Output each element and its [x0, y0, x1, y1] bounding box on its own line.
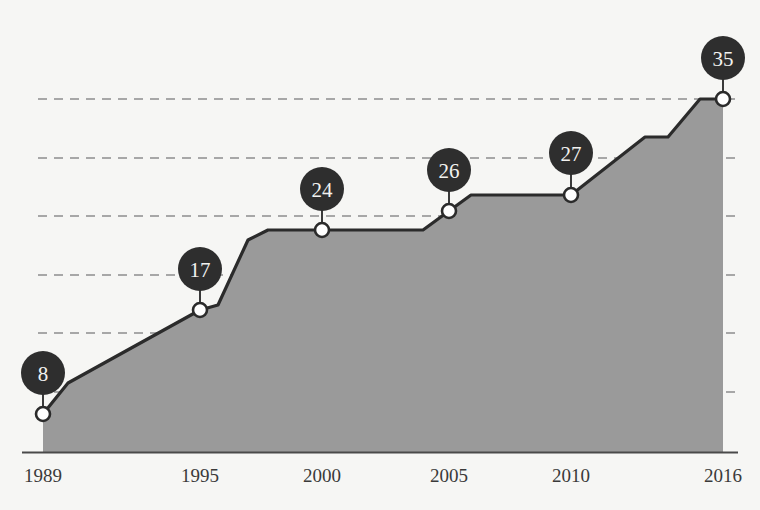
- data-marker: [442, 204, 456, 218]
- data-marker: [716, 92, 730, 106]
- x-tick-label: 1989: [24, 465, 62, 486]
- value-label: 26: [439, 159, 460, 183]
- x-tick-label: 2016: [704, 465, 742, 486]
- data-marker: [564, 188, 578, 202]
- x-tick-label: 2010: [552, 465, 590, 486]
- data-marker: [193, 303, 207, 317]
- value-label: 17: [190, 258, 211, 282]
- area-chart: 8 17 24 26 27 35 1989 1995 2000 2005 201…: [0, 0, 760, 510]
- chart-canvas: 8 17 24 26 27 35 1989 1995 2000 2005 201…: [0, 0, 760, 510]
- x-tick-label: 1995: [181, 465, 219, 486]
- value-label: 27: [561, 142, 582, 166]
- x-tick-label: 2005: [430, 465, 468, 486]
- data-marker: [315, 223, 329, 237]
- value-label: 8: [38, 362, 49, 386]
- data-marker: [36, 407, 50, 421]
- value-label: 24: [312, 178, 334, 202]
- x-tick-label: 2000: [303, 465, 341, 486]
- value-label: 35: [713, 47, 734, 71]
